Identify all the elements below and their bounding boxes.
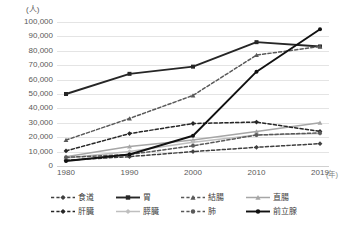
data-point-marker [255,70,259,74]
data-point-marker [254,145,259,150]
legend-swatch-icon [115,207,141,216]
x-axis-tick-labels: 19801990200020102019 [57,168,329,182]
legend-label: 膵臓 [143,207,159,216]
x-axis-tick-label: 2010 [248,168,266,177]
legend-item-直腸[interactable]: 直腸 [245,193,310,202]
x-axis-tick-label: 1980 [57,168,75,177]
legend-swatch-icon [115,193,141,202]
y-axis-unit-label: (人) [26,3,39,14]
y-axis-tick-label: 10,000 [5,148,53,156]
data-point-marker [256,209,260,213]
data-point-marker [64,148,69,153]
y-axis-tick-label: 20,000 [5,133,53,141]
y-axis-tick-label: 100,000 [5,18,53,26]
legend-item-前立腺[interactable]: 前立腺 [245,207,310,216]
data-point-marker [125,208,130,213]
plot-area [57,22,329,166]
data-point-marker [254,120,259,125]
legend-swatch-icon [180,207,206,216]
y-axis-tick-label: 0 [5,162,53,170]
y-axis-tick-label: 90,000 [5,32,53,40]
cancer-incidence-line-chart: (人) (年) 100,00090,00080,00070,00060,0005… [0,0,349,236]
chart-legend: 食道胃結腸直腸肝臓膵臓肺前立腺 [50,190,310,218]
gridline [57,166,329,167]
legend-item-胃[interactable]: 胃 [115,193,180,202]
legend-swatch-icon [245,193,271,202]
data-point-marker [64,155,68,159]
legend-item-結腸[interactable]: 結腸 [180,193,245,202]
data-point-marker [60,194,65,199]
data-point-marker [126,195,130,199]
data-point-marker [191,134,195,138]
legend-item-膵臓[interactable]: 膵臓 [115,207,180,216]
data-point-marker [191,209,195,213]
data-point-marker [255,40,259,44]
legend-item-肝臓[interactable]: 肝臓 [50,207,115,216]
data-point-marker [191,144,195,148]
legend-item-肺[interactable]: 肺 [180,207,245,216]
data-point-marker [318,141,323,146]
data-point-marker [191,121,196,126]
data-point-marker [191,65,195,69]
legend-swatch-icon [180,193,206,202]
legend-label: 結腸 [208,193,224,202]
legend-swatch-icon [50,207,76,216]
y-axis-tick-label: 50,000 [5,90,53,98]
data-point-marker [128,72,132,76]
legend-label: 直腸 [273,193,289,202]
y-axis-tick-label: 30,000 [5,119,53,127]
legend-swatch-icon [245,207,271,216]
y-axis-tick-label: 40,000 [5,104,53,112]
y-axis-tick-label: 60,000 [5,76,53,84]
legend-label: 前立腺 [273,207,297,216]
series-1 [64,40,322,96]
series-lines-layer [57,22,329,166]
data-point-marker [255,133,259,137]
y-axis-tick-label: 80,000 [5,47,53,55]
data-point-marker [191,149,196,154]
data-point-marker [318,27,322,31]
data-point-marker [128,152,132,156]
legend-label: 胃 [143,193,151,202]
data-point-marker [318,131,322,135]
data-point-marker [64,159,68,163]
legend-label: 食道 [78,193,94,202]
legend-label: 肺 [208,207,216,216]
x-axis-tick-label: 2019 [311,168,329,177]
data-point-marker [64,92,68,96]
legend-swatch-icon [50,193,76,202]
y-axis-tick-labels: 100,00090,00080,00070,00060,00050,00040,… [0,22,53,166]
y-axis-tick-label: 70,000 [5,61,53,69]
data-point-marker [60,208,65,213]
legend-item-食道[interactable]: 食道 [50,193,115,202]
data-point-marker [127,131,132,136]
x-axis-tick-label: 2000 [184,168,202,177]
x-axis-tick-label: 1990 [121,168,139,177]
legend-label: 肝臓 [78,207,94,216]
